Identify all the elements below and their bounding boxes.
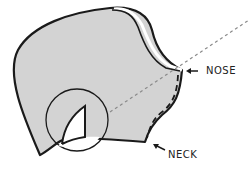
neck-label: NECK (168, 149, 197, 160)
nose-arrow-icon (186, 68, 198, 74)
neck-arrow-icon (153, 144, 165, 150)
pattern-piece-drawing (0, 0, 249, 170)
nose-label: NOSE (206, 65, 236, 76)
pattern-diagram: NOSE NECK (0, 0, 249, 170)
